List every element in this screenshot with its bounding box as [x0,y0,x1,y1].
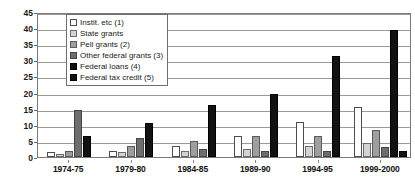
bar [208,105,216,157]
bar [47,152,55,157]
bar [172,146,180,157]
y-axis-label: 20 [24,89,33,99]
bar-group-bars [287,14,349,157]
x-axis: 1974-751979-801984-851989-901994-951999-… [37,160,411,184]
y-axis-label: 5 [28,137,33,147]
bar [74,110,82,157]
bar [83,136,91,157]
bar [390,30,398,157]
legend-item-label: Instit. etc (1) [80,18,124,28]
bar [181,151,189,157]
legend-item[interactable]: Federal tax credit (5) [70,72,163,83]
y-axis-tick [34,158,37,159]
bar [372,130,380,157]
bar [127,146,135,157]
x-axis-label: 1984-85 [178,164,209,174]
x-axis-tick [193,160,194,163]
bar-group [350,14,412,157]
legend-item[interactable]: State grants [70,28,163,39]
legend-swatch-icon [70,74,77,81]
y-axis-label: 40 [24,24,33,34]
legend-swatch-icon [70,19,77,26]
bar [296,122,304,157]
legend-item[interactable]: Federal loans (4) [70,61,163,72]
bar [199,149,207,157]
x-axis-label: 1994-95 [302,164,333,174]
y-axis-label: 25 [24,72,33,82]
bar [252,136,260,157]
bar-group-bars [163,14,225,157]
legend-item-label: Federal loans (4) [80,62,140,72]
bar [109,151,117,157]
y-axis-label: 45 [24,8,33,18]
y-axis-label: 0 [28,153,33,163]
bar [354,107,362,157]
x-axis-tick [380,160,381,163]
legend-item-label: State grants [80,29,123,39]
x-axis-label: 1979-80 [115,164,146,174]
bar [118,152,126,157]
legend-item-label: Federal tax credit (5) [80,73,154,83]
bar-group [163,14,225,157]
y-axis: 051015202530354045 [0,0,37,186]
bar-group [225,14,287,157]
bar-group-bars [225,14,287,157]
x-axis-label: 1989-90 [240,164,271,174]
y-axis-label: 35 [24,40,33,50]
x-axis-tick [68,160,69,163]
legend-item[interactable]: Other federal grants (3) [70,50,163,61]
bar [332,56,340,158]
x-axis-tick [255,160,256,163]
y-axis-label: 15 [24,105,33,115]
bar [145,123,153,157]
x-axis-label: 1999-2000 [360,164,400,174]
y-axis-label: 10 [24,121,33,131]
bar [261,151,269,157]
bar [305,146,313,157]
legend-swatch-icon [70,63,77,70]
legend-item-label: Other federal grants (3) [80,51,163,61]
bar-group-bars [350,14,412,157]
bar [363,143,371,158]
chart-legend: Instit. etc (1)State grantsPell grants (… [66,14,168,86]
bar-group [287,14,349,157]
bar [234,136,242,157]
legend-item-label: Pell grants (2) [80,40,130,50]
bar [399,151,407,157]
legend-swatch-icon [70,41,77,48]
bar [190,141,198,157]
legend-swatch-icon [70,30,77,37]
legend-swatch-icon [70,52,77,59]
x-axis-label: 1974-75 [53,164,84,174]
bar [381,147,389,157]
x-axis-tick [131,160,132,163]
bar [270,94,278,157]
bar-chart: 051015202530354045 1974-751979-801984-85… [0,0,415,186]
legend-item[interactable]: Instit. etc (1) [70,17,163,28]
bar [56,154,64,157]
bar [65,151,73,157]
y-axis-label: 30 [24,56,33,66]
bar [136,138,144,157]
bar [314,136,322,157]
x-axis-tick [318,160,319,163]
bar [243,149,251,157]
bar [323,151,331,157]
legend-item[interactable]: Pell grants (2) [70,39,163,50]
